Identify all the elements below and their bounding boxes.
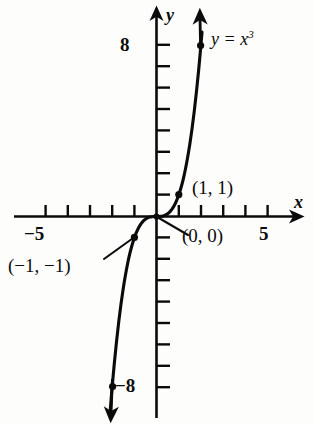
annotation-leader-lines [104, 218, 188, 260]
y-axis-name-label: y [166, 6, 174, 24]
point-label-0-0: (0, 0) [182, 226, 223, 245]
point-label-1-1: (1, 1) [192, 178, 233, 197]
point-marker-2-8 [197, 42, 204, 49]
x-axis-tick-label-neg5: −5 [24, 224, 44, 243]
y-axis-tick-label-neg8: −8 [115, 376, 135, 395]
x-axis-name-label: x [294, 193, 303, 211]
curve-equation-label: y = x3 [211, 29, 254, 48]
graph-canvas [0, 0, 314, 425]
point-marker-neg1-neg1 [131, 234, 138, 241]
y-axis-tick-label-8: 8 [120, 35, 130, 54]
curve-equation-exponent: 3 [248, 28, 254, 40]
x-axis-tick-label-5: 5 [259, 224, 269, 243]
point-marker-0-0 [153, 213, 159, 219]
point-marker-1-1 [175, 191, 182, 198]
point-label-neg1-neg1: (−1, −1) [8, 256, 71, 275]
cubic-function-graph-figure: 8 −8 5 −5 x y (1, 1) (0, 0) (−1, −1) y =… [0, 0, 314, 425]
curve-equation-base: y = x [211, 29, 248, 49]
